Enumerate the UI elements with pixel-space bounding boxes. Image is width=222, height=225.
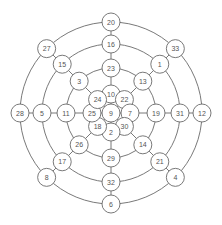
- nodes: 9102273021825242313191429261131613121321…: [11, 13, 211, 213]
- node-label: 1: [158, 61, 162, 68]
- node-20: 20: [102, 13, 120, 31]
- node-label: 16: [107, 41, 115, 48]
- node-label: 28: [16, 110, 24, 117]
- node-label: 12: [198, 110, 206, 117]
- node-12: 12: [193, 104, 211, 122]
- node-24: 24: [89, 91, 107, 109]
- node-28: 28: [11, 104, 29, 122]
- node-label: 23: [107, 65, 115, 72]
- node-1: 1: [151, 55, 169, 73]
- node-label: 11: [62, 110, 69, 117]
- node-label: 6: [109, 201, 113, 208]
- node-label: 24: [94, 96, 102, 103]
- node-label: 9: [109, 110, 113, 117]
- node-label: 29: [107, 155, 115, 162]
- node-label: 17: [58, 158, 66, 165]
- node-label: 10: [107, 91, 115, 98]
- node-4: 4: [166, 168, 184, 186]
- node-26: 26: [70, 136, 88, 154]
- node-17: 17: [53, 153, 71, 171]
- node-14: 14: [134, 136, 152, 154]
- node-label: 19: [152, 110, 160, 117]
- node-23: 23: [102, 59, 120, 77]
- node-label: 31: [176, 110, 184, 117]
- node-32: 32: [102, 173, 120, 191]
- node-21: 21: [151, 153, 169, 171]
- node-6: 6: [102, 195, 120, 213]
- node-label: 30: [121, 123, 129, 130]
- node-label: 21: [156, 158, 164, 165]
- node-label: 25: [88, 110, 96, 117]
- node-label: 8: [45, 174, 49, 181]
- node-label: 4: [173, 174, 177, 181]
- node-8: 8: [38, 168, 56, 186]
- node-label: 5: [40, 110, 44, 117]
- node-16: 16: [102, 35, 120, 53]
- node-9: 9: [102, 104, 120, 122]
- node-label: 3: [77, 78, 81, 85]
- node-29: 29: [102, 149, 120, 167]
- node-label: 33: [171, 45, 179, 52]
- node-label: 26: [75, 141, 83, 148]
- node-label: 27: [43, 45, 51, 52]
- node-label: 32: [107, 179, 115, 186]
- node-27: 27: [38, 40, 56, 58]
- node-33: 33: [166, 40, 184, 58]
- node-13: 13: [134, 72, 152, 90]
- node-label: 20: [107, 19, 115, 26]
- node-label: 13: [139, 78, 147, 85]
- node-label: 18: [94, 123, 102, 130]
- node-label: 2: [109, 129, 113, 136]
- node-11: 11: [57, 104, 75, 122]
- node-5: 5: [33, 104, 51, 122]
- node-label: 7: [128, 110, 132, 117]
- node-31: 31: [171, 104, 189, 122]
- node-label: 14: [139, 141, 147, 148]
- node-label: 22: [121, 96, 129, 103]
- node-19: 19: [147, 104, 165, 122]
- concentric-number-diagram: 9102273021825242313191429261131613121321…: [0, 0, 222, 225]
- node-3: 3: [70, 72, 88, 90]
- node-label: 15: [58, 61, 66, 68]
- node-15: 15: [53, 55, 71, 73]
